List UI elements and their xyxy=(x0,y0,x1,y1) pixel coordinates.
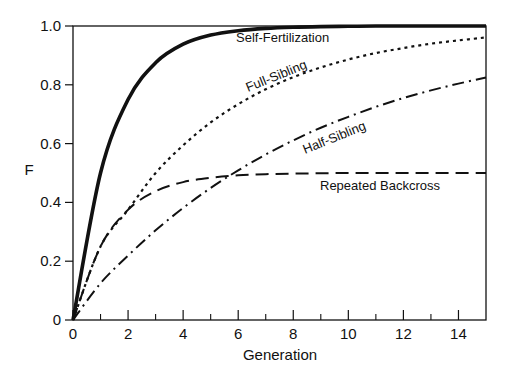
label-half-sibling: Half-Sibling xyxy=(301,118,368,157)
x-tick-label: 4 xyxy=(179,325,187,342)
x-tick-label: 2 xyxy=(124,325,132,342)
y-tick-label: 0.4 xyxy=(40,193,61,210)
y-axis: 00.20.40.60.81.0 xyxy=(40,17,73,328)
x-tick-label: 0 xyxy=(69,325,77,342)
x-tick-label: 10 xyxy=(340,325,357,342)
y-tick-label: 0.2 xyxy=(40,252,61,269)
x-tick-label: 6 xyxy=(234,325,242,342)
inbreeding-chart: 00.20.40.60.81.0 02468101214 Generation … xyxy=(0,0,507,377)
label-repeated-backcross: Repeated Backcross xyxy=(320,178,440,193)
x-tick-label: 12 xyxy=(395,325,412,342)
y-tick-label: 0.8 xyxy=(40,76,61,93)
x-tick-label: 8 xyxy=(289,325,297,342)
y-tick-label: 0.6 xyxy=(40,135,61,152)
y-tick-label: 1.0 xyxy=(40,17,61,34)
x-axis: 02468101214 xyxy=(69,310,467,342)
x-tick-label: 14 xyxy=(450,325,467,342)
series-repeated-backcross xyxy=(73,173,486,320)
x-axis-title: Generation xyxy=(243,346,317,363)
series-half-sibling xyxy=(73,77,486,320)
y-tick-label: 0 xyxy=(53,311,61,328)
y-axis-title: F xyxy=(24,161,33,178)
label-self-fertilization: Self-Fertilization xyxy=(236,30,329,45)
